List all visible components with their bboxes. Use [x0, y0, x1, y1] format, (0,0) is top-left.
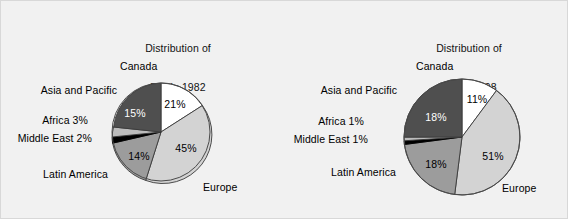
- pie-label-europe: Europe: [502, 182, 536, 194]
- pie-slice-asia-pacific[interactable]: [404, 79, 462, 137]
- chart-panel-1982: Distribution of DFI in 1982: [0, 0, 284, 219]
- pie-label-africa: Africa 3%: [8, 114, 88, 126]
- pie-value-canada: 21%: [164, 98, 185, 110]
- pie-slices-1982: [112, 83, 212, 184]
- pie-label-middle-east: Middle East 2%: [2, 132, 92, 144]
- pie-value-europe: 45%: [175, 142, 196, 154]
- chart-panel-1998: Distribution of DFI in 1998: [284, 0, 568, 219]
- pie-value-latin-america: 18%: [425, 158, 446, 170]
- dual-pie-chart-figure: Distribution of DFI in 1982: [0, 0, 568, 219]
- pie-label-asia-pacific: Asia and Pacific: [20, 84, 117, 96]
- pie-label-asia-pacific: Asia and Pacific: [300, 84, 397, 96]
- pie-label-africa: Africa 1%: [290, 115, 364, 127]
- pie-label-europe: Europe: [203, 181, 237, 193]
- pie-slices-1998: [404, 79, 520, 195]
- pie-value-asia-pacific: 18%: [425, 111, 446, 123]
- pie-label-latin-america: Latin America: [26, 168, 108, 180]
- pie-value-europe: 51%: [482, 150, 503, 162]
- pie-value-canada: 11%: [467, 93, 488, 105]
- pie-label-middle-east: Middle East 1%: [284, 133, 368, 145]
- pie-label-canada: Canada: [120, 60, 157, 72]
- pie-label-canada: Canada: [416, 60, 453, 72]
- pie-value-asia-pacific: 15%: [124, 107, 145, 119]
- pie-label-latin-america: Latin America: [314, 166, 396, 178]
- pie-value-latin-america: 14%: [128, 150, 149, 162]
